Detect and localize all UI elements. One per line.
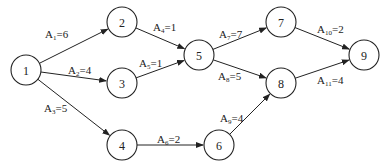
node-label: 2 bbox=[119, 16, 125, 30]
node-9: 9 bbox=[349, 40, 379, 70]
edge-label: A7=7 bbox=[219, 28, 243, 42]
node-label: 9 bbox=[361, 49, 367, 63]
edge-label: A1=6 bbox=[45, 28, 69, 42]
edge-label: A11=4 bbox=[317, 74, 344, 88]
edge-label: A2=4 bbox=[68, 64, 92, 78]
node-label: 5 bbox=[196, 49, 202, 63]
edge-label: A3=5 bbox=[44, 102, 68, 116]
node-2: 2 bbox=[107, 7, 137, 37]
edge-label: A6=2 bbox=[157, 133, 180, 147]
edge-label: A10=2 bbox=[317, 23, 344, 37]
node-label: 8 bbox=[278, 77, 284, 91]
edge-label: A9=4 bbox=[220, 112, 244, 126]
node-1: 1 bbox=[11, 55, 41, 85]
node-5: 5 bbox=[184, 40, 214, 70]
edge-label: A5=1 bbox=[139, 57, 162, 71]
node-label: 3 bbox=[119, 77, 125, 91]
node-6: 6 bbox=[204, 130, 234, 160]
node-label: 7 bbox=[278, 16, 284, 30]
edge-label: A4=1 bbox=[153, 21, 176, 35]
node-8: 8 bbox=[266, 68, 296, 98]
node-label: 1 bbox=[23, 64, 29, 78]
node-label: 4 bbox=[119, 139, 125, 153]
node-3: 3 bbox=[107, 68, 137, 98]
node-label: 6 bbox=[216, 139, 222, 153]
edge-label: A8=5 bbox=[218, 70, 242, 84]
node-7: 7 bbox=[266, 7, 296, 37]
node-4: 4 bbox=[107, 130, 137, 160]
network-diagram: A1=6A2=4A3=5A4=1A5=1A6=2A7=7A8=5A9=4A10=… bbox=[0, 0, 386, 167]
